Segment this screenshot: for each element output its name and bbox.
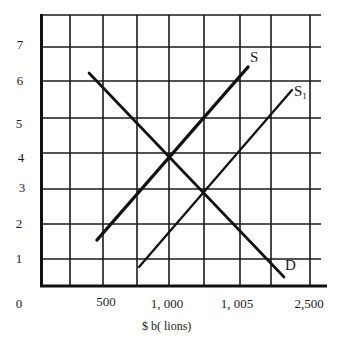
y-tick-2: 2 — [12, 217, 26, 230]
grid-horizontal-lines — [41, 15, 321, 259]
y-tick-7: 7 — [13, 38, 27, 51]
x-tick-500: 500 — [96, 295, 116, 308]
label-s1-subscript: 1 — [302, 91, 307, 101]
grid-vertical-lines — [70, 15, 310, 286]
y-tick-6: 6 — [13, 74, 27, 87]
chart-canvas — [0, 0, 339, 341]
y-tick-1: 1 — [12, 252, 26, 265]
y-tick-3: 3 — [15, 181, 29, 194]
y-tick-4: 4 — [14, 151, 28, 164]
origin-label: 0 — [12, 297, 26, 310]
x-tick-1000: 1, 000 — [151, 297, 184, 310]
x-tick-2500: 2,500 — [294, 297, 323, 310]
x-tick-1005: 1, 005 — [221, 297, 254, 310]
label-s1: S1 — [294, 84, 307, 101]
y-tick-5: 5 — [12, 117, 26, 130]
curve-s1 — [139, 90, 292, 267]
label-d: D — [285, 258, 296, 273]
curve-d — [89, 73, 284, 277]
x-axis-title: $ b( lions) — [142, 320, 191, 332]
label-s: S — [250, 50, 258, 65]
